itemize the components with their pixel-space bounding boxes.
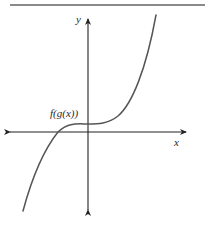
- y-axis-label: y: [75, 13, 81, 25]
- function-label: f(g(x)): [50, 107, 78, 120]
- function-graph: y x f(g(x)): [0, 0, 211, 227]
- x-axis-label: x: [173, 136, 179, 148]
- function-curve: [23, 15, 156, 211]
